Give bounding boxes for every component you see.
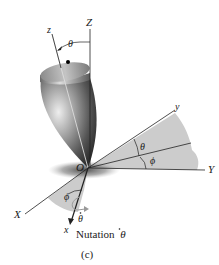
label-theta-top: θ bbox=[68, 38, 73, 49]
theta-arrow-top bbox=[57, 46, 62, 51]
label-phi-left: ϕ bbox=[64, 191, 69, 202]
figure-caption: (c) bbox=[81, 248, 94, 261]
z-axis-top bbox=[52, 34, 61, 68]
theta-dot-mark bbox=[80, 212, 82, 214]
label-origin: O bbox=[76, 161, 84, 173]
top-body bbox=[41, 78, 97, 168]
label-theta-dot: θ bbox=[78, 213, 83, 224]
nutation-symbol: θ bbox=[120, 228, 126, 240]
theta-arc-top bbox=[58, 42, 90, 50]
nutation-label: Nutation θ bbox=[76, 228, 126, 240]
label-X: X bbox=[13, 208, 22, 220]
nutation-dot-mark bbox=[119, 228, 121, 230]
spinning-top-diagram: Z z θ y Y θ ϕ O ϕ X x θ Nutation θ (c) bbox=[0, 0, 219, 265]
label-Y: Y bbox=[208, 163, 216, 175]
label-y: y bbox=[174, 101, 180, 112]
label-theta-right: θ bbox=[140, 141, 145, 152]
top-dot bbox=[66, 60, 70, 64]
label-x: x bbox=[63, 224, 69, 235]
label-phi-right: ϕ bbox=[150, 155, 155, 166]
label-z: z bbox=[46, 24, 51, 35]
spinning-top bbox=[39, 59, 97, 168]
x-axis-arrowhead bbox=[68, 218, 74, 225]
nutation-arrowhead bbox=[84, 206, 89, 212]
nutation-text: Nutation bbox=[76, 228, 115, 240]
label-Z: Z bbox=[86, 16, 93, 28]
